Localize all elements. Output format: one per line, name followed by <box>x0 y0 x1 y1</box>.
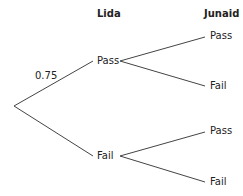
lida-fail: Fail <box>97 150 114 162</box>
header-lida: Lida <box>97 8 121 20</box>
tree-branches <box>0 0 243 196</box>
junaid-pass-1: Pass <box>210 30 232 42</box>
junaid-pass-2: Pass <box>210 125 232 137</box>
probability-label: 0.75 <box>35 70 57 82</box>
junaid-fail-1: Fail <box>210 80 227 92</box>
lida-pass: Pass <box>97 55 119 67</box>
junaid-fail-2: Fail <box>210 176 227 188</box>
header-junaid: Junaid <box>204 8 239 20</box>
